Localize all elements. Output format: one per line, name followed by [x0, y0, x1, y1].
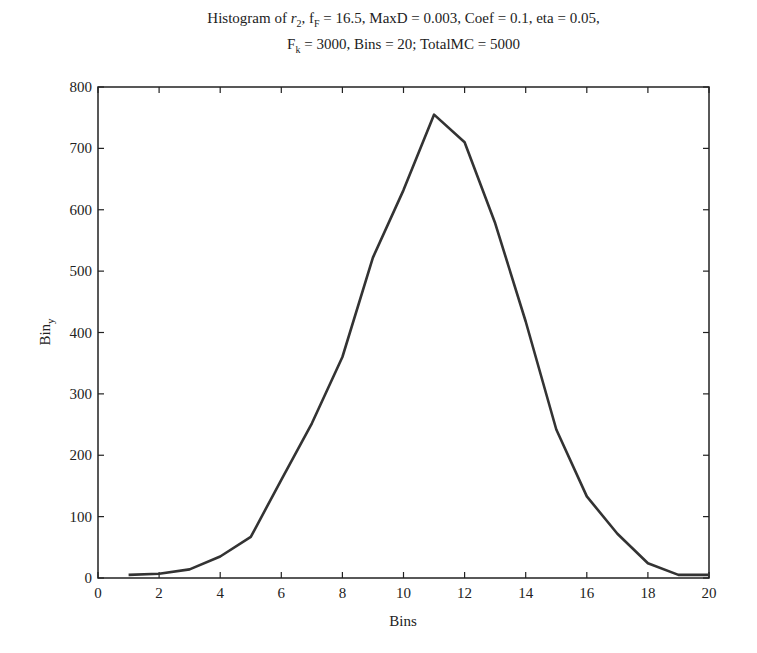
- axis-ticks: 0246810121416182001002003004005006007008…: [70, 79, 717, 601]
- y-tick-label: 0: [85, 570, 93, 586]
- x-tick-label: 18: [640, 585, 655, 601]
- x-tick-label: 20: [702, 585, 717, 601]
- x-tick-label: 14: [518, 585, 534, 601]
- x-tick-label: 12: [457, 585, 472, 601]
- y-tick-label: 100: [70, 509, 93, 525]
- x-axis-label: Bins: [389, 613, 417, 629]
- y-tick-label: 700: [70, 140, 93, 156]
- x-tick-label: 16: [579, 585, 595, 601]
- plot-frame: [98, 87, 709, 578]
- y-tick-label: 300: [70, 386, 93, 402]
- y-tick-label: 800: [70, 79, 93, 95]
- plot-axes: [98, 87, 709, 578]
- y-tick-label: 500: [70, 263, 93, 279]
- x-tick-label: 4: [216, 585, 224, 601]
- y-tick-label: 600: [70, 202, 93, 218]
- y-tick-label: 400: [70, 325, 93, 341]
- x-tick-label: 10: [396, 585, 411, 601]
- data-series-line: [129, 115, 709, 575]
- x-tick-label: 6: [278, 585, 286, 601]
- y-axis-label: Biny: [37, 318, 56, 346]
- x-tick-label: 8: [339, 585, 347, 601]
- line-chart: 0246810121416182001002003004005006007008…: [0, 0, 757, 653]
- y-tick-label: 200: [70, 447, 93, 463]
- x-tick-label: 0: [94, 585, 102, 601]
- x-tick-label: 2: [155, 585, 163, 601]
